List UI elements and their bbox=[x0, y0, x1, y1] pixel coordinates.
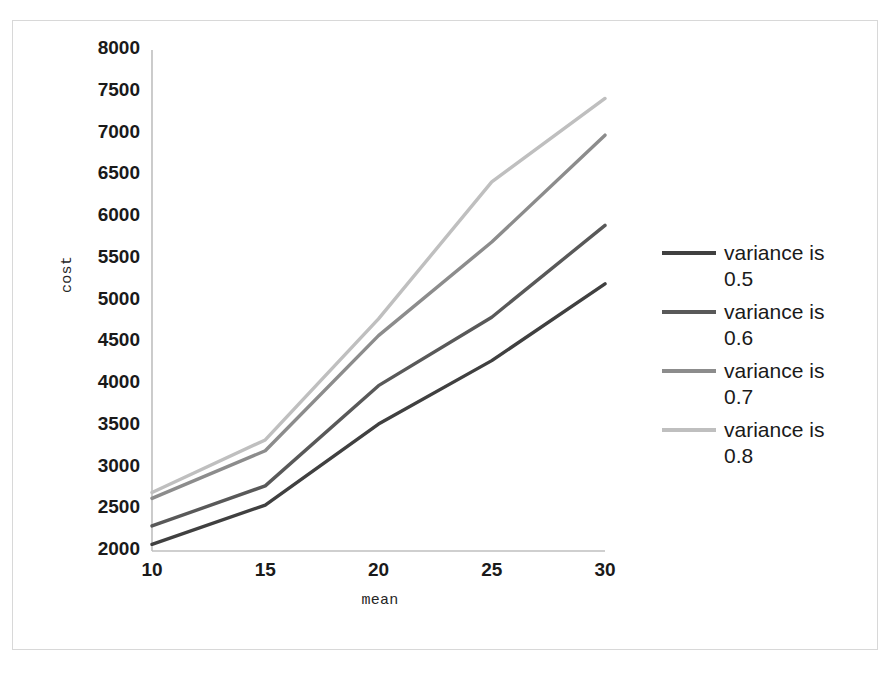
series-line-1 bbox=[152, 225, 605, 526]
legend-label: variance is 0.8 bbox=[724, 417, 856, 470]
series-lines bbox=[152, 98, 605, 544]
legend-label: variance is 0.7 bbox=[724, 358, 856, 411]
legend-item[interactable]: variance is 0.8 bbox=[662, 417, 872, 470]
line-chart: cost mean 200025003000350040004500500055… bbox=[0, 0, 890, 685]
series-line-0 bbox=[152, 284, 605, 545]
chart-legend: variance is 0.5variance is 0.6variance i… bbox=[662, 240, 872, 476]
legend-label: variance is 0.5 bbox=[724, 240, 856, 293]
axis-lines bbox=[152, 50, 605, 551]
legend-swatch-icon bbox=[662, 251, 716, 255]
legend-swatch-icon bbox=[662, 428, 716, 432]
series-line-3 bbox=[152, 98, 605, 492]
legend-item[interactable]: variance is 0.6 bbox=[662, 299, 872, 352]
legend-item[interactable]: variance is 0.5 bbox=[662, 240, 872, 293]
legend-item[interactable]: variance is 0.7 bbox=[662, 358, 872, 411]
legend-label: variance is 0.6 bbox=[724, 299, 856, 352]
legend-swatch-icon bbox=[662, 369, 716, 373]
legend-swatch-icon bbox=[662, 310, 716, 314]
